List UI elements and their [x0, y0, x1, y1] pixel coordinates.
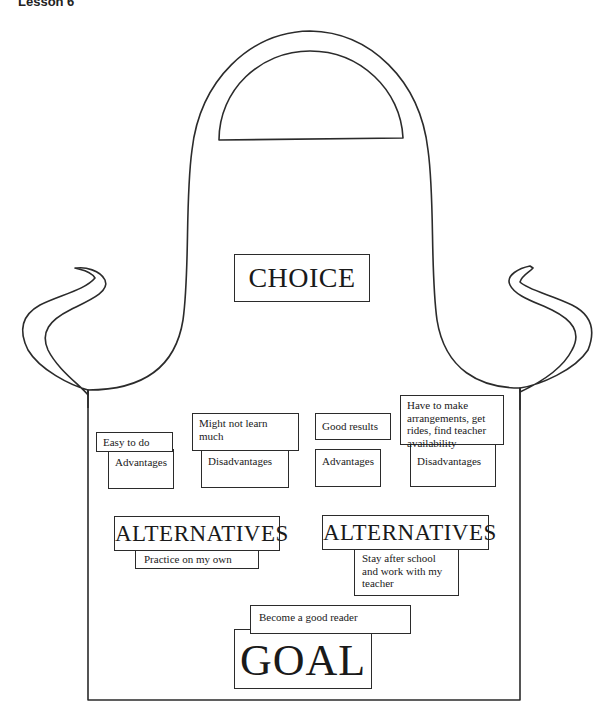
advantage-text-2: Good results: [315, 413, 391, 440]
advantage-text-1: Easy to do: [96, 432, 173, 452]
disadvantage-text-1: Might not learn much: [192, 413, 299, 451]
advantages-label-2: Advantages: [315, 449, 381, 487]
goal-text: Become a good reader: [250, 605, 411, 634]
alternatives-heading-1: ALTERNATIVES: [114, 516, 280, 551]
alternatives-heading-2: ALTERNATIVES: [322, 515, 489, 550]
right-tie: [509, 266, 592, 392]
disadvantages-label-1: Disadvantages: [201, 448, 289, 488]
advantages-label-1: Advantages: [108, 449, 174, 489]
alternative-text-2: Stay after school and work with my teach…: [354, 547, 459, 596]
apron-body: [88, 31, 520, 700]
choice-box: CHOICE: [234, 254, 370, 302]
alternative-text-1: Practice on my own: [135, 549, 259, 569]
left-tie: [23, 268, 106, 395]
apron-neck-hole: [219, 51, 403, 140]
goal-box: GOAL: [234, 629, 372, 689]
disadvantage-text-2: Have to make arrangements, get rides, fi…: [400, 395, 504, 445]
